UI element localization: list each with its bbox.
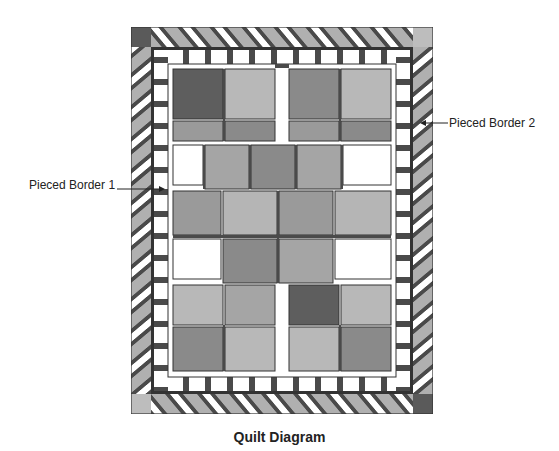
leader-arrow-border-1 [117,185,165,193]
quilt-diagram [131,27,433,414]
leader-arrow-border-2 [420,119,448,127]
quilt-center [168,64,396,377]
label-pieced-border-1: Pieced Border 1 [29,178,115,192]
diagram-caption: Quilt Diagram [0,429,559,445]
label-pieced-border-2: Pieced Border 2 [449,116,535,130]
